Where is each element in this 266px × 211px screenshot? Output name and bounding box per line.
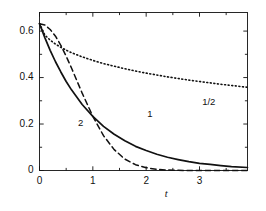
x-tick-label: 1 [79,175,107,186]
axis-frame [40,13,248,171]
curve-1-2 [40,24,248,88]
y-tick-label: 0.4 [0,71,34,82]
curve-label-1: 1 [147,108,152,119]
axis-ticks [40,13,248,171]
curve-label-2: 2 [78,117,83,128]
x-tick-label: 0 [26,175,54,186]
x-tick-label: 2 [132,175,160,186]
y-tick-label: 0.6 [0,25,34,36]
y-tick-label: 0.2 [0,118,34,129]
curve-1 [40,24,248,168]
y-tick-label: 0 [0,164,34,175]
curve-label-1-2: 1/2 [202,96,215,107]
x-tick-label: 3 [186,175,214,186]
chart-container: 00.20.40.6 0123 1/212 t [0,0,266,211]
curve-2 [40,24,248,171]
data-curves [40,24,248,171]
x-axis-title: t [165,188,168,199]
